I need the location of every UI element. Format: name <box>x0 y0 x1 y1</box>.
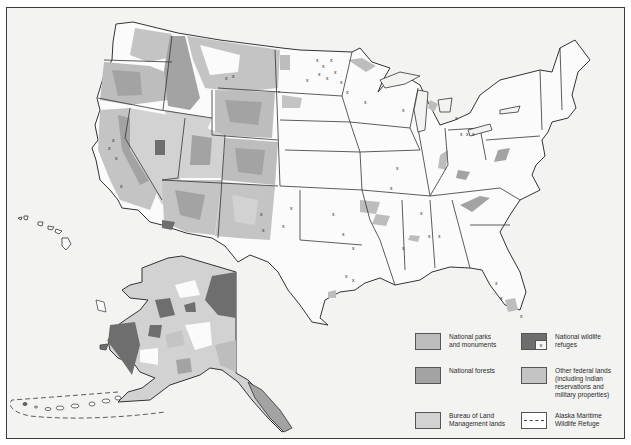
refuge-x-marker-icon: x <box>535 340 546 349</box>
blm-lands-swatch <box>415 412 441 429</box>
legend-label: Bureau of Land Management lands <box>449 412 505 428</box>
national-parks-swatch <box>415 333 441 350</box>
other-federal-swatch <box>521 367 547 384</box>
hawaii <box>18 216 71 250</box>
legend-item-blm-lands: Bureau of Land Management lands <box>415 412 505 429</box>
alaska-panhandle <box>248 382 292 432</box>
svg-text:x: x <box>520 313 523 319</box>
national-forests-swatch <box>415 367 441 384</box>
legend-label: Other federal lands (including Indian re… <box>555 367 611 399</box>
alaska <box>10 256 292 432</box>
legend-label: National wildlife refuges <box>555 333 601 349</box>
legend-label: National forests <box>449 367 495 375</box>
wildlife-refuges-swatch: x <box>521 333 547 350</box>
legend-label: Alaska Maritime Wildlife Refuge <box>555 412 602 428</box>
legend-item-other-federal: Other federal lands (including Indian re… <box>521 367 611 399</box>
legend-item-wildlife-refuges: x National wildlife refuges <box>521 333 601 350</box>
dashed-line-swatch <box>521 412 547 429</box>
aleutian-islands <box>23 300 121 411</box>
legend-item-national-parks: National parks and monuments <box>415 333 496 350</box>
legend-label: National parks and monuments <box>449 333 496 349</box>
legend-item-national-forests: National forests <box>415 367 495 384</box>
legend-item-alaska-maritime: Alaska Maritime Wildlife Refuge <box>521 412 602 429</box>
